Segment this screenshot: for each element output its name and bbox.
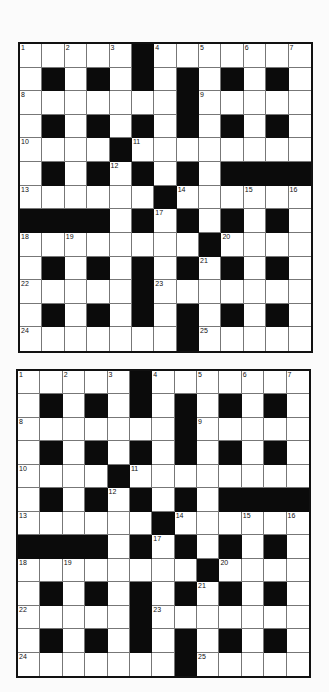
answer-square[interactable] <box>219 465 241 488</box>
answer-square[interactable] <box>108 559 130 582</box>
answer-square[interactable] <box>177 44 199 68</box>
answer-square[interactable] <box>266 138 288 162</box>
answer-square[interactable] <box>110 209 132 233</box>
answer-square[interactable] <box>42 44 64 68</box>
answer-square[interactable]: 16 <box>287 512 309 535</box>
answer-square[interactable] <box>242 394 264 417</box>
answer-square[interactable] <box>289 233 311 257</box>
answer-square[interactable] <box>132 186 154 210</box>
answer-square[interactable] <box>219 606 241 629</box>
answer-square[interactable] <box>108 512 130 535</box>
answer-square[interactable]: 19 <box>65 233 87 257</box>
answer-square[interactable] <box>40 606 62 629</box>
answer-square[interactable] <box>154 233 176 257</box>
answer-square[interactable] <box>18 441 40 464</box>
answer-square[interactable] <box>110 186 132 210</box>
answer-square[interactable]: 22 <box>18 606 40 629</box>
answer-square[interactable]: 25 <box>197 653 219 676</box>
answer-square[interactable] <box>40 418 62 441</box>
answer-square[interactable] <box>197 488 219 511</box>
answer-square[interactable] <box>242 606 264 629</box>
answer-square[interactable]: 17 <box>154 209 176 233</box>
answer-square[interactable] <box>20 257 42 281</box>
answer-square[interactable] <box>287 394 309 417</box>
answer-square[interactable] <box>110 327 132 351</box>
answer-square[interactable] <box>287 441 309 464</box>
answer-square[interactable] <box>242 418 264 441</box>
answer-square[interactable] <box>154 138 176 162</box>
answer-square[interactable] <box>63 465 85 488</box>
answer-square[interactable] <box>287 418 309 441</box>
answer-square[interactable] <box>199 68 221 92</box>
answer-square[interactable] <box>242 559 264 582</box>
answer-square[interactable] <box>289 68 311 92</box>
answer-square[interactable] <box>175 559 197 582</box>
answer-square[interactable] <box>175 371 197 394</box>
answer-square[interactable]: 20 <box>219 559 241 582</box>
answer-square[interactable] <box>87 233 109 257</box>
answer-square[interactable] <box>264 559 286 582</box>
answer-square[interactable] <box>244 257 266 281</box>
answer-square[interactable] <box>152 488 174 511</box>
answer-square[interactable] <box>65 257 87 281</box>
answer-square[interactable]: 9 <box>199 91 221 115</box>
answer-square[interactable]: 2 <box>65 44 87 68</box>
answer-square[interactable] <box>152 653 174 676</box>
answer-square[interactable] <box>87 280 109 304</box>
answer-square[interactable]: 21 <box>199 257 221 281</box>
answer-square[interactable] <box>108 441 130 464</box>
answer-square[interactable] <box>130 559 152 582</box>
answer-square[interactable] <box>266 91 288 115</box>
answer-square[interactable] <box>87 327 109 351</box>
answer-square[interactable] <box>221 138 243 162</box>
answer-square[interactable] <box>132 91 154 115</box>
answer-square[interactable] <box>264 606 286 629</box>
answer-square[interactable] <box>219 512 241 535</box>
answer-square[interactable] <box>266 44 288 68</box>
answer-square[interactable] <box>152 465 174 488</box>
answer-square[interactable] <box>85 559 107 582</box>
answer-square[interactable]: 12 <box>110 162 132 186</box>
answer-square[interactable]: 9 <box>197 418 219 441</box>
answer-square[interactable] <box>244 304 266 328</box>
answer-square[interactable] <box>154 68 176 92</box>
answer-square[interactable] <box>87 186 109 210</box>
answer-square[interactable] <box>242 582 264 605</box>
answer-square[interactable] <box>221 327 243 351</box>
answer-square[interactable]: 14 <box>175 512 197 535</box>
answer-square[interactable] <box>85 606 107 629</box>
answer-square[interactable]: 7 <box>289 44 311 68</box>
answer-square[interactable] <box>199 280 221 304</box>
answer-square[interactable] <box>42 186 64 210</box>
answer-square[interactable] <box>219 653 241 676</box>
answer-square[interactable]: 25 <box>199 327 221 351</box>
answer-square[interactable] <box>152 418 174 441</box>
answer-square[interactable] <box>108 653 130 676</box>
answer-square[interactable] <box>197 394 219 417</box>
answer-square[interactable] <box>18 488 40 511</box>
answer-square[interactable]: 19 <box>63 559 85 582</box>
answer-square[interactable] <box>244 68 266 92</box>
answer-square[interactable] <box>287 465 309 488</box>
answer-square[interactable] <box>244 327 266 351</box>
answer-square[interactable] <box>85 371 107 394</box>
answer-square[interactable] <box>154 91 176 115</box>
answer-square[interactable] <box>40 653 62 676</box>
answer-square[interactable] <box>175 465 197 488</box>
answer-square[interactable] <box>40 512 62 535</box>
answer-square[interactable]: 18 <box>18 559 40 582</box>
answer-square[interactable] <box>85 465 107 488</box>
answer-square[interactable] <box>154 115 176 139</box>
answer-square[interactable] <box>108 394 130 417</box>
answer-square[interactable]: 15 <box>244 186 266 210</box>
answer-square[interactable] <box>42 138 64 162</box>
answer-square[interactable] <box>110 115 132 139</box>
answer-square[interactable] <box>266 280 288 304</box>
answer-square[interactable] <box>244 115 266 139</box>
answer-square[interactable] <box>177 280 199 304</box>
answer-square[interactable] <box>242 629 264 652</box>
answer-square[interactable] <box>219 418 241 441</box>
answer-square[interactable]: 21 <box>197 582 219 605</box>
answer-square[interactable]: 24 <box>20 327 42 351</box>
answer-square[interactable] <box>130 512 152 535</box>
